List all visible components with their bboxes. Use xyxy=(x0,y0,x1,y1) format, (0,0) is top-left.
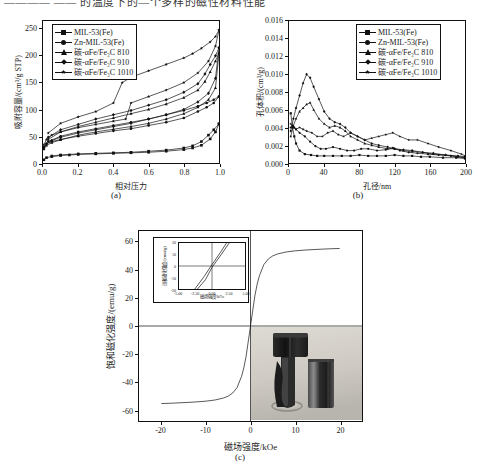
axis-tick-label: -10 xyxy=(200,426,211,435)
axis-tick-label: 0.4 xyxy=(108,168,118,177)
legend-marker-sq-icon xyxy=(55,28,72,37)
axis-tick-label: 120 xyxy=(389,168,401,177)
axis-tick xyxy=(184,164,185,167)
axis-tick-label: 1.0 xyxy=(215,168,225,177)
axis-tick xyxy=(39,110,42,111)
axis-tick xyxy=(220,164,221,167)
axis-tick xyxy=(135,411,138,412)
axis-tick xyxy=(324,164,325,167)
legend-label: 碳-αFe/Fe₃C 1010 xyxy=(378,68,437,77)
axis-tick xyxy=(285,92,288,93)
axis-tick xyxy=(395,164,396,167)
axis-tick xyxy=(161,422,162,425)
panel-b-caption: (b) xyxy=(238,190,478,200)
axis-tick xyxy=(135,354,138,355)
axis-tick xyxy=(39,82,42,83)
axis-tick xyxy=(285,128,288,129)
axis-tick xyxy=(285,146,288,147)
axis-tick xyxy=(149,164,150,167)
header-text: ———— —— 的温度下的—个多样的磁性材料性能 xyxy=(4,0,266,9)
axis-tick xyxy=(466,164,467,167)
inset-x-axis-title: 磁场强度/kOe xyxy=(178,293,246,299)
axis-tick-label: 40 xyxy=(320,168,328,177)
axis-tick xyxy=(251,422,252,425)
cropped-header-text: ———— —— 的温度下的—个多样的磁性材料性能 xyxy=(0,0,478,11)
magnet-photo-image xyxy=(251,327,362,420)
panel-c-plot-area: -5.00-2.500.002.505.00 -20-1001020 磁场强度/… xyxy=(138,230,363,422)
legend-marker-diamond-icon xyxy=(55,58,72,67)
axis-tick-label: 200 xyxy=(460,168,472,177)
axis-tick-label: 0.6 xyxy=(144,168,154,177)
axis-tick-label: 0 xyxy=(286,168,290,177)
legend-item: 碳-αFe/Fe₃C 1010 xyxy=(55,67,133,77)
legend-label: MIL-53(Fe) xyxy=(378,28,417,37)
axis-tick xyxy=(42,164,43,167)
legend-label: 碳-αFe/Fe₃C 810 xyxy=(74,48,129,57)
panel-c-inset: -5.00-2.500.002.505.00 -20-1001020 磁场强度/… xyxy=(153,237,249,303)
legend-marker-diamond-icon xyxy=(359,58,376,67)
axis-tick-label: 0 xyxy=(249,426,253,435)
axis-tick-label: 0.8 xyxy=(179,168,189,177)
legend-label: Zn-MIL-53(Fe) xyxy=(74,38,124,47)
axis-tick xyxy=(430,164,431,167)
axis-tick xyxy=(285,20,288,21)
panel-b: MIL-53(Fe) Zn-MIL-53(Fe) 碳-αFe/Fe₃C 810 … xyxy=(238,12,478,202)
panel-a-legend: MIL-53(Fe) Zn-MIL-53(Fe) 碳-αFe/Fe₃C 810 … xyxy=(52,24,137,80)
panel-a-caption: (a) xyxy=(0,190,232,200)
axis-tick xyxy=(39,28,42,29)
axis-tick xyxy=(285,164,288,165)
inset-y-axis-title: 饱和磁化强度/(emu/g) xyxy=(161,242,167,290)
axis-tick xyxy=(206,422,207,425)
legend-item: MIL-53(Fe) xyxy=(359,27,437,37)
axis-tick xyxy=(113,164,114,167)
legend-item: MIL-53(Fe) xyxy=(55,27,133,37)
panel-a-y-axis-title: 吸附容量/(cm³/g STP) xyxy=(12,20,23,164)
panel-a: MIL-53(Fe) Zn-MIL-53(Fe) 碳-αFe/Fe₃C 810 … xyxy=(0,12,232,202)
panel-c: -5.00-2.500.002.505.00 -20-1001020 磁场强度/… xyxy=(60,200,420,467)
legend-marker-sq-icon xyxy=(359,28,376,37)
axis-tick xyxy=(285,56,288,57)
legend-item: 碳-αFe/Fe₃C 1010 xyxy=(359,67,437,77)
axis-tick xyxy=(285,38,288,39)
axis-tick xyxy=(285,110,288,111)
axis-tick xyxy=(341,422,342,425)
axis-tick xyxy=(285,74,288,75)
panel-b-legend: MIL-53(Fe) Zn-MIL-53(Fe) 碳-αFe/Fe₃C 810 … xyxy=(356,24,441,80)
axis-tick xyxy=(288,164,289,167)
legend-item: 碳-αFe/Fe₃C 810 xyxy=(359,47,437,57)
axis-tick xyxy=(135,298,138,299)
legend-label: 碳-αFe/Fe₃C 1010 xyxy=(74,68,133,77)
axis-tick xyxy=(135,382,138,383)
inset-plot-area xyxy=(178,242,246,290)
axis-tick xyxy=(39,137,42,138)
axis-tick-label: 10 xyxy=(292,426,300,435)
legend-label: 碳-αFe/Fe₃C 910 xyxy=(74,58,129,67)
axis-tick xyxy=(78,164,79,167)
legend-marker-triangle-icon xyxy=(55,48,72,57)
axis-tick xyxy=(135,241,138,242)
legend-item: 碳-αFe/Fe₃C 810 xyxy=(55,47,133,57)
axis-tick-label: 20 xyxy=(337,426,345,435)
axis-tick-label: 0.2 xyxy=(73,168,83,177)
axis-tick xyxy=(39,164,42,165)
axis-tick-label: 80 xyxy=(355,168,363,177)
legend-marker-circle-icon xyxy=(55,38,72,47)
legend-item: Zn-MIL-53(Fe) xyxy=(55,37,133,47)
axis-tick-label: 160 xyxy=(424,168,436,177)
panel-b-y-axis-title: 孔体积/(cm³/g) xyxy=(254,20,265,164)
axis-tick-label: -20 xyxy=(155,426,166,435)
legend-label: MIL-53(Fe) xyxy=(74,28,113,37)
axis-tick xyxy=(135,326,138,327)
legend-item: 碳-αFe/Fe₃C 910 xyxy=(55,57,133,67)
panel-c-y-axis-title: 饱和磁化强度/(emu/g) xyxy=(104,230,117,422)
axis-tick-label: 0.0 xyxy=(37,168,47,177)
legend-item: Zn-MIL-53(Fe) xyxy=(359,37,437,47)
legend-marker-triangle-icon xyxy=(359,48,376,57)
legend-marker-star-icon xyxy=(359,68,376,77)
legend-label: 碳-αFe/Fe₃C 910 xyxy=(378,58,433,67)
inset-curves xyxy=(179,243,245,289)
legend-marker-star-icon xyxy=(55,68,72,77)
legend-item: 碳-αFe/Fe₃C 910 xyxy=(359,57,437,67)
axis-tick xyxy=(359,164,360,167)
axis-tick xyxy=(296,422,297,425)
